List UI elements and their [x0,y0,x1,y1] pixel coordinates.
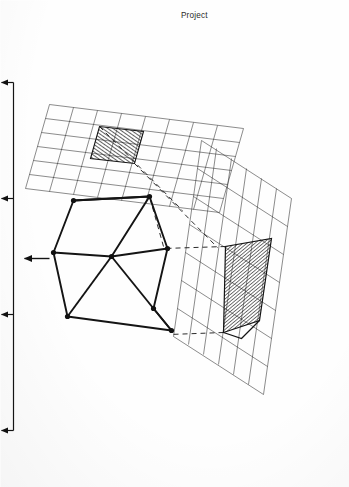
tier-label-project: Project [164,11,224,21]
diagram-page: Project View Level (Floor / number) Cont… [0,0,349,487]
level-content-layer [0,0,349,487]
